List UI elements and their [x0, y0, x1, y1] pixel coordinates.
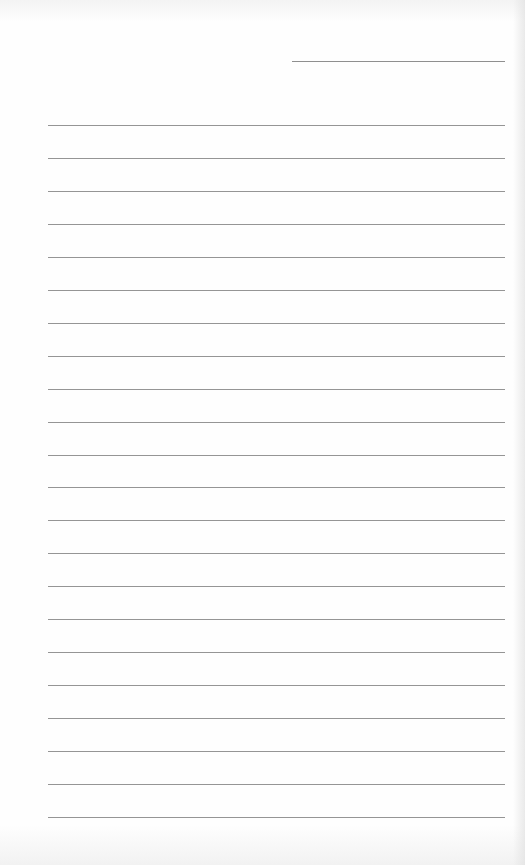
bleed-through-top	[0, 0, 525, 22]
ruled-line	[48, 455, 505, 456]
page-edge-shadow	[513, 0, 525, 865]
ruled-line	[48, 685, 505, 686]
ruled-line	[48, 586, 505, 587]
ruled-line	[48, 356, 505, 357]
ruled-line	[48, 487, 505, 488]
lined-paper-page	[0, 0, 525, 865]
bleed-through-bottom	[0, 825, 525, 865]
ruled-line	[48, 125, 505, 126]
ruled-line	[48, 422, 505, 423]
ruled-line	[48, 257, 505, 258]
ruled-line	[48, 784, 505, 785]
header-name-date-line	[292, 61, 505, 62]
ruled-line	[48, 191, 505, 192]
ruled-line	[48, 290, 505, 291]
ruled-line	[48, 652, 505, 653]
ruled-line	[48, 553, 505, 554]
ruled-line	[48, 323, 505, 324]
ruled-line	[48, 224, 505, 225]
ruled-line	[48, 619, 505, 620]
ruled-line	[48, 718, 505, 719]
ruled-line	[48, 389, 505, 390]
ruled-line	[48, 751, 505, 752]
ruled-line	[48, 158, 505, 159]
ruled-line	[48, 520, 505, 521]
ruled-line	[48, 817, 505, 818]
